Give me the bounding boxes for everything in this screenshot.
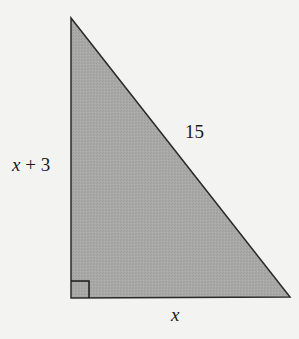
vertical-leg-rest: + 3 — [20, 154, 50, 175]
triangle-shape — [71, 18, 290, 298]
hypotenuse-label: 15 — [185, 122, 204, 141]
vertical-leg-label: x + 3 — [12, 155, 50, 174]
horizontal-leg-label: x — [171, 305, 179, 324]
